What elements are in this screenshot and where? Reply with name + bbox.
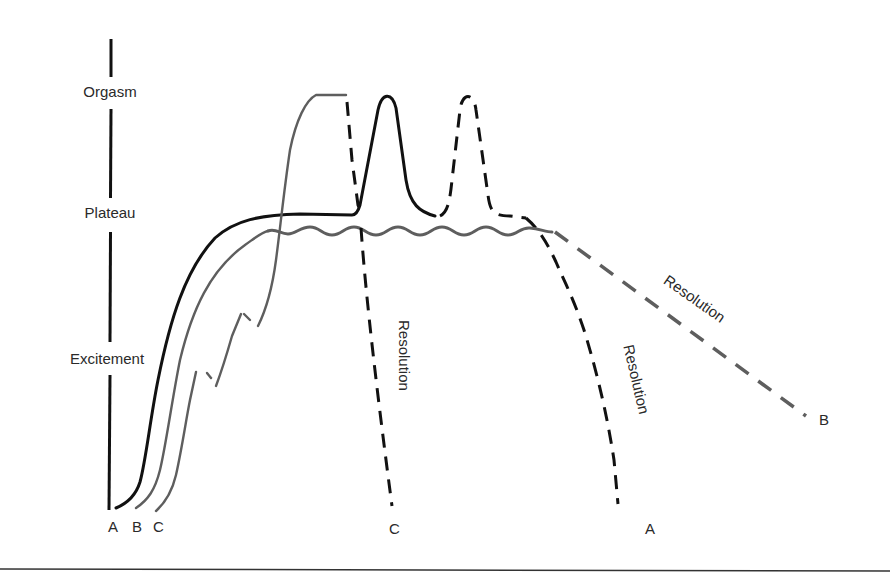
phase-label-orgasm: Orgasm — [78, 84, 142, 99]
end-label-c: C — [389, 521, 400, 536]
bottom-rule — [0, 569, 890, 571]
curve-b — [136, 227, 806, 508]
start-label-b: B — [132, 519, 142, 534]
end-label-b: B — [819, 412, 829, 427]
end-label-a: A — [645, 521, 655, 536]
vertical-axis — [109, 39, 111, 510]
start-label-a: A — [108, 519, 118, 534]
curve-c — [156, 95, 392, 511]
phase-label-plateau: Plateau — [79, 205, 141, 220]
phase-label-excitement: Excitement — [62, 351, 152, 366]
resolution-label-c: Resolution — [397, 320, 412, 391]
start-label-c: C — [153, 519, 164, 534]
